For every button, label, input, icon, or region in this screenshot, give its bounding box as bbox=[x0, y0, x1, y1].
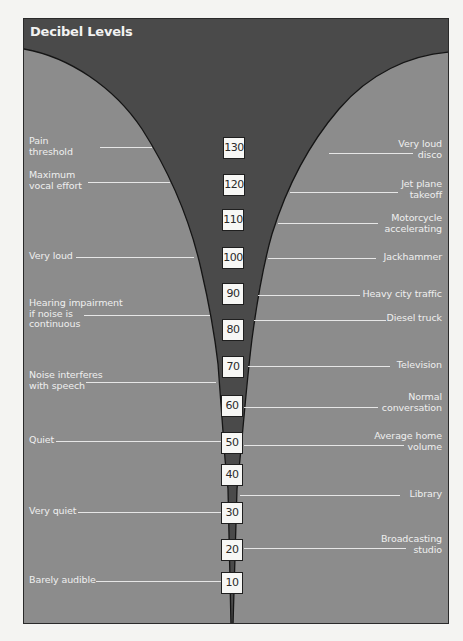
decibel-box-100: 100 bbox=[222, 247, 244, 269]
label-very-quiet: Very quiet bbox=[29, 506, 76, 517]
decibel-box-130: 130 bbox=[223, 137, 245, 159]
leader-line bbox=[86, 382, 216, 383]
decibel-box-120: 120 bbox=[223, 174, 245, 196]
decibel-box-20: 20 bbox=[221, 539, 243, 561]
leader-line bbox=[248, 366, 390, 367]
label-noise-interferes: Noise interferes with speech bbox=[29, 370, 103, 391]
diagram-title: Decibel Levels bbox=[30, 24, 133, 39]
label-library: Library bbox=[409, 489, 442, 500]
label-average-home-volume: Average home volume bbox=[374, 431, 442, 452]
leader-line bbox=[240, 495, 400, 496]
leader-line bbox=[268, 258, 376, 259]
leader-line bbox=[88, 182, 170, 183]
decibel-box-60: 60 bbox=[221, 395, 243, 417]
label-diesel-truck: Diesel truck bbox=[387, 313, 442, 324]
label-very-loud: Very loud bbox=[29, 251, 73, 262]
decibel-diagram-frame: Decibel Levels Pain threshold Maximum vo… bbox=[23, 18, 449, 624]
label-jet-plane-takeoff: Jet plane takeoff bbox=[401, 179, 442, 200]
decibel-box-10: 10 bbox=[221, 572, 243, 594]
label-hearing-impairment: Hearing impairment if noise is continuou… bbox=[29, 298, 123, 330]
decibel-box-50: 50 bbox=[221, 432, 243, 454]
label-maximum-vocal-effort: Maximum vocal effort bbox=[29, 170, 82, 191]
leader-line bbox=[278, 223, 378, 224]
leader-line bbox=[254, 320, 386, 321]
decibel-box-30: 30 bbox=[221, 502, 243, 524]
label-broadcasting-studio: Broadcasting studio bbox=[381, 534, 442, 555]
decibel-box-40: 40 bbox=[221, 464, 243, 486]
leader-line bbox=[56, 441, 222, 442]
label-motorcycle-accelerating: Motorcycle accelerating bbox=[384, 213, 442, 234]
decibel-box-70: 70 bbox=[222, 356, 244, 378]
label-jackhammer: Jackhammer bbox=[384, 252, 442, 263]
decibel-box-80: 80 bbox=[222, 319, 244, 341]
label-normal-conversation: Normal conversation bbox=[382, 392, 442, 413]
label-pain-threshold: Pain threshold bbox=[29, 136, 73, 157]
decibel-box-110: 110 bbox=[222, 209, 244, 231]
leader-line bbox=[96, 581, 222, 582]
label-barely-audible: Barely audible bbox=[29, 575, 96, 586]
label-very-loud-disco: Very loud disco bbox=[398, 139, 442, 160]
label-television: Television bbox=[397, 360, 442, 371]
leader-line bbox=[100, 147, 152, 148]
decibel-box-90: 90 bbox=[222, 283, 244, 305]
leader-line bbox=[244, 407, 378, 408]
label-quiet: Quiet bbox=[29, 435, 54, 446]
leader-line bbox=[290, 192, 398, 193]
label-heavy-city-traffic: Heavy city traffic bbox=[362, 289, 442, 300]
leader-line bbox=[76, 257, 194, 258]
leader-line bbox=[78, 512, 224, 513]
leader-line bbox=[258, 295, 360, 296]
